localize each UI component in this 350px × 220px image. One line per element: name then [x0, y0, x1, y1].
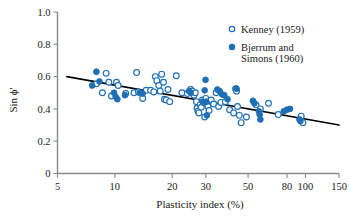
x-tick-label: 20 — [167, 181, 178, 192]
legend-label-kenney: Kenney (1959) — [241, 24, 305, 36]
x-tick-label: 50 — [243, 181, 254, 192]
data-point — [196, 110, 202, 116]
x-tick-label: 5 — [55, 181, 60, 192]
data-point — [159, 71, 165, 77]
data-point — [99, 90, 105, 96]
data-point — [122, 92, 128, 98]
data-point — [234, 86, 240, 92]
data-point — [225, 96, 231, 102]
data-point — [287, 106, 293, 112]
legend-label-bjerrum-line1: Bjerrum and — [241, 42, 295, 53]
data-point — [167, 99, 173, 105]
data-point — [106, 79, 112, 85]
data-point — [103, 70, 109, 76]
x-tick-label: 30 — [201, 181, 212, 192]
legend-label-bjerrum-line2: Simons (1960) — [241, 53, 304, 65]
data-point — [238, 120, 244, 126]
y-tick-label: 1.0 — [37, 7, 50, 18]
y-tick-label: 0.2 — [37, 136, 50, 147]
data-point — [157, 88, 163, 94]
x-tick-label: 100 — [298, 181, 314, 192]
data-point — [115, 83, 121, 89]
data-point — [165, 87, 171, 93]
data-point — [244, 114, 250, 120]
data-point — [203, 77, 209, 83]
x-tick-label: 80 — [282, 181, 293, 192]
y-tick-label: 0.4 — [37, 104, 51, 115]
data-point — [231, 110, 237, 116]
y-tick-label: 0.8 — [37, 39, 50, 50]
data-point — [204, 112, 210, 118]
y-tick-label: 0 — [45, 168, 50, 179]
data-point — [252, 100, 258, 106]
x-tick-label: 10 — [110, 181, 121, 192]
scatter-chart: 00.20.40.60.81.0 51020305080100150 Sin ϕ… — [0, 0, 350, 220]
data-point — [151, 89, 157, 95]
x-axis-ticks: 51020305080100150 — [55, 174, 347, 192]
data-point — [161, 79, 167, 85]
data-point — [94, 69, 100, 75]
data-point — [203, 99, 209, 105]
data-point — [202, 87, 208, 93]
figure-container: 00.20.40.60.81.0 51020305080100150 Sin ϕ… — [0, 0, 350, 220]
x-tick-label: 150 — [331, 181, 347, 192]
data-point — [134, 70, 140, 76]
data-point — [275, 112, 281, 118]
data-point — [188, 90, 194, 96]
data-point — [297, 118, 303, 124]
y-axis-title: Sin ϕ' — [7, 87, 19, 112]
data-point — [257, 117, 263, 123]
data-point — [114, 96, 120, 102]
data-point — [236, 112, 242, 118]
legend-marker-filled-circle-icon — [229, 44, 235, 50]
data-point — [235, 104, 241, 110]
data-point — [266, 100, 272, 106]
data-point — [97, 79, 103, 85]
chart-legend: Kenney (1959) Bjerrum and Simons (1960) — [229, 24, 305, 66]
data-point — [140, 91, 146, 97]
data-point — [173, 73, 179, 79]
y-axis-ticks: 00.20.40.60.81.0 — [37, 7, 57, 180]
x-axis-title: Plasticity index (%) — [156, 198, 244, 211]
data-point — [89, 83, 95, 89]
y-tick-label: 0.6 — [37, 71, 50, 82]
legend-marker-open-circle-icon — [229, 26, 234, 31]
